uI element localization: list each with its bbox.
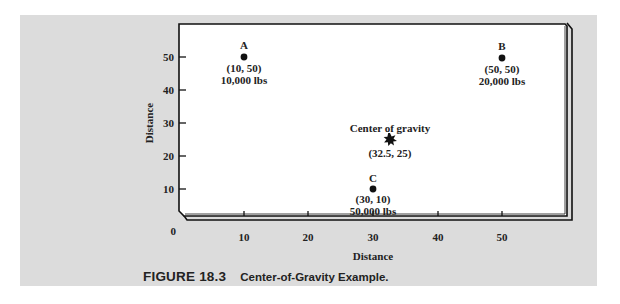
x-tick-label: 10 xyxy=(239,231,251,243)
point-c-weight: 50,000 lbs xyxy=(350,205,397,217)
figure-title: Center-of-Gravity Example. xyxy=(240,271,388,283)
figure-caption: FIGURE 18.3Center-of-Gravity Example. xyxy=(143,269,389,284)
chart-svg: 50 40 30 20 10 0 10 20 30 40 50 Distance… xyxy=(0,0,620,304)
point-a-weight: 10,000 lbs xyxy=(221,74,268,86)
point-c-label: C xyxy=(369,172,377,184)
point-a-marker xyxy=(241,54,248,61)
y-tick-label: 20 xyxy=(163,150,175,162)
x-tick-label: 50 xyxy=(497,231,509,243)
origin-label: 0 xyxy=(171,225,177,237)
x-axis-title: Distance xyxy=(353,250,393,262)
y-axis-title: Distance xyxy=(143,103,155,143)
point-a-label: A xyxy=(240,39,248,51)
x-tick-label: 30 xyxy=(368,231,380,243)
y-tick-label: 10 xyxy=(163,183,175,195)
cog-label: Center of gravity xyxy=(350,122,431,134)
point-b-marker xyxy=(499,55,506,62)
x-tick-label: 20 xyxy=(303,231,315,243)
y-axis-labels: 50 40 30 20 10 0 xyxy=(163,51,177,237)
point-c-marker xyxy=(370,186,377,193)
y-tick-label: 40 xyxy=(163,84,175,96)
y-tick-label: 50 xyxy=(163,51,175,63)
y-tick-label: 30 xyxy=(163,117,175,129)
x-tick-label: 40 xyxy=(433,231,445,243)
cog-coords: (32.5, 25) xyxy=(368,147,411,160)
figure-number: FIGURE 18.3 xyxy=(143,269,226,284)
point-b-label: B xyxy=(498,40,506,52)
point-b-weight: 20,000 lbs xyxy=(479,75,526,87)
x-axis-labels: 10 20 30 40 50 xyxy=(239,231,509,243)
